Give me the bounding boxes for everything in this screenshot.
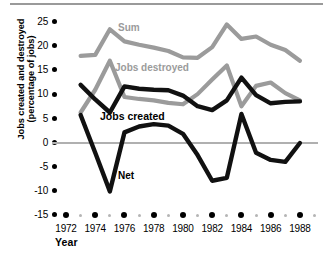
x-tick-dot-minor-1981 xyxy=(196,214,199,217)
series-label-sum: Sum xyxy=(118,22,140,33)
x-tick-dot-1978 xyxy=(151,212,157,218)
x-axis-label: Year xyxy=(55,236,78,248)
x-tick-dot-minor-1977 xyxy=(138,214,141,217)
x-tick-dot-minor-1985 xyxy=(255,214,258,217)
x-tick-dot-1986 xyxy=(268,212,274,218)
x-tick-dot-1980 xyxy=(180,212,186,218)
x-tick-dot-minor-1983 xyxy=(225,214,228,217)
series-label-jobs-created: Jobs created xyxy=(100,110,165,122)
series-label-jobs-destroyed: Jobs destroyed xyxy=(115,62,189,73)
series-label-net: Net xyxy=(118,170,134,181)
x-tick-dot-1972 xyxy=(63,212,69,218)
series-line-net xyxy=(81,114,300,191)
x-tick-label-1988: 1988 xyxy=(283,223,317,234)
x-tick-dot-minor-1987 xyxy=(284,214,287,217)
x-tick-dot-1988 xyxy=(297,212,303,218)
plot-area xyxy=(0,0,325,256)
chart-figure: Jobs created and destroyed (percentage o… xyxy=(0,0,325,256)
x-tick-dot-minor-1989 xyxy=(313,214,316,217)
series-line-sum xyxy=(81,24,300,60)
x-tick-dot-minor-1973 xyxy=(79,214,82,217)
x-tick-dot-minor-1979 xyxy=(167,214,170,217)
